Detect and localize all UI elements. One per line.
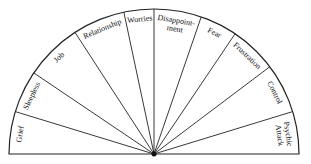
segment-label-text: Relationship — [82, 17, 123, 41]
emotion-semicircle-chart: GriefSleeplessJobRelationshipWorriesDisa… — [0, 0, 311, 164]
segment-label-worries: Worries — [127, 13, 153, 25]
segment-label-frustration: Frustration — [231, 40, 263, 71]
segment-label-control: Control — [265, 80, 284, 107]
spokes — [15, 9, 292, 154]
center-hub — [152, 152, 157, 157]
segment-label-text: Control — [265, 80, 284, 107]
spoke-line — [154, 17, 201, 154]
segment-label-text: Fear — [206, 26, 223, 41]
segment-label-grief: Grief — [14, 125, 25, 143]
segment-label-relationship: Relationship — [82, 17, 123, 41]
segment-label-text: Worries — [127, 13, 153, 25]
spoke-line — [124, 12, 154, 154]
spoke-line — [15, 112, 154, 154]
segment-label-sleepless: Sleepless — [21, 80, 42, 111]
spoke-line — [154, 34, 235, 154]
segment-label-text: Frustration — [231, 40, 263, 71]
spoke-line — [154, 67, 270, 154]
segment-label-fear: Fear — [206, 26, 223, 41]
segment-label-text: ment — [166, 23, 184, 35]
segment-label-text: Grief — [14, 125, 25, 143]
spoke-line — [154, 112, 293, 154]
segment-label-job: Job — [52, 50, 66, 64]
spoke-line — [75, 32, 154, 154]
segment-label-text: Attack — [274, 124, 286, 146]
segment-label-psychic-attack: PsychicAttack — [273, 121, 294, 149]
segment-label-text: Sleepless — [21, 80, 42, 111]
segment-label-disappointment: Disappoint-ment — [156, 13, 196, 37]
segment-label-text: Job — [52, 50, 66, 64]
spoke-line — [34, 73, 154, 154]
